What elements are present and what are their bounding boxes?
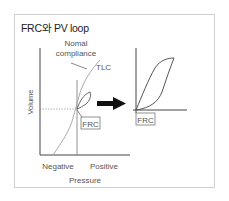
y-axis-label: Volume <box>26 89 35 114</box>
callout-line <box>71 63 87 69</box>
tlc-label: TLC <box>96 63 111 72</box>
right-chart: FRC <box>133 48 187 125</box>
frc-callout-line <box>77 110 82 117</box>
compliance-curve <box>53 60 100 155</box>
right-arrow-icon <box>97 97 126 110</box>
x-tick-positive: Positive <box>90 162 119 171</box>
x-axis-label: Pressure <box>69 176 102 185</box>
x-tick-negative: Negative <box>42 162 74 171</box>
curve-label-line2: compliance <box>56 49 97 58</box>
pv-loop-large <box>136 58 174 110</box>
left-chart: FRC Nomal compliance TLC Volume Negative… <box>26 39 130 185</box>
curve-label-line1: Nomal <box>64 39 87 48</box>
frc-label-right: FRC <box>137 116 154 125</box>
frc-label: FRC <box>82 120 99 129</box>
pv-loop-diagram: FRC Nomal compliance TLC Volume Negative… <box>0 0 229 201</box>
